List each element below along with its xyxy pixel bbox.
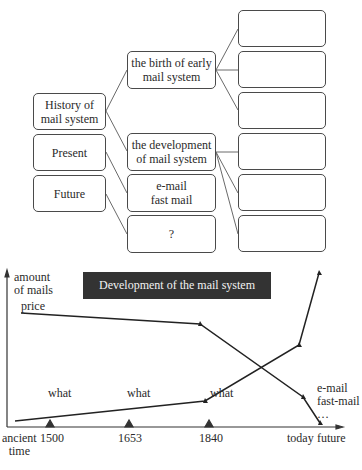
box-history: History of mail system xyxy=(33,93,106,130)
answer-box-6[interactable] xyxy=(238,215,326,252)
y-axis-label: amount of mails xyxy=(14,271,53,297)
answer-box-2[interactable] xyxy=(238,51,326,88)
x-tick-today: today xyxy=(287,432,314,445)
x-tick-1500: 1500 xyxy=(40,432,64,445)
x-tick-future: future xyxy=(317,432,346,445)
annotation-what-2: what xyxy=(127,387,150,400)
box-present: Present xyxy=(33,134,106,171)
box-development-mail: the development of mail system xyxy=(127,133,216,171)
future-note: e-mail fast-mail … xyxy=(317,382,360,421)
x-tick-ancient-time: ancient time xyxy=(2,432,37,458)
annotation-what-1: what xyxy=(48,387,71,400)
price-label: price xyxy=(21,300,45,313)
box-future: Future xyxy=(33,175,106,212)
answer-box-4[interactable] xyxy=(238,133,326,170)
answer-box-1[interactable] xyxy=(238,10,326,47)
answer-box-3[interactable] xyxy=(238,92,326,129)
answer-box-5[interactable] xyxy=(238,174,326,211)
box-question: ? xyxy=(127,215,216,253)
chart-title-banner: Development of the mail system xyxy=(83,272,271,299)
x-tick-1840: 1840 xyxy=(199,432,223,445)
x-tick-1653: 1653 xyxy=(118,432,142,445)
annotation-what-3: what xyxy=(210,387,233,400)
price-line xyxy=(21,313,320,423)
box-birth-early-mail: the birth of early mail system xyxy=(127,51,216,89)
box-email-fastmail: e-mail fast mail xyxy=(127,174,216,212)
